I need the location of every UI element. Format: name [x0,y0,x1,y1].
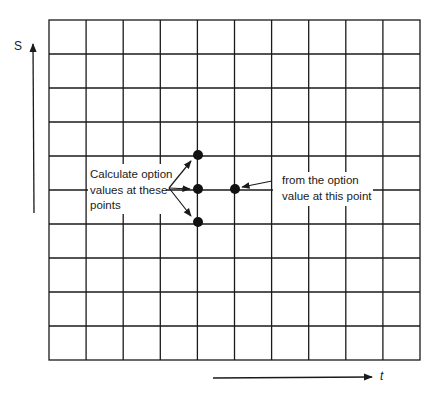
arrow-to-source-point [242,181,272,187]
middle-target-point [193,184,203,194]
s-axis-label: S [14,39,22,53]
source-value-label: from the option value at this point [282,173,372,204]
source-point [230,184,240,194]
calculate-values-label-line-2: values at these [90,183,172,199]
source-value-label-line-1: from the option [282,173,372,189]
source-value-label-line-2: value at this point [282,189,372,205]
t-axis-arrow [213,377,372,378]
upper-target-point [193,150,203,160]
lower-target-point [193,217,203,227]
t-axis-label: t [380,369,383,383]
s-axis-arrow [33,44,34,213]
calculate-values-label-line-3: points [90,198,172,214]
calculate-values-label: Calculate option values at these points [90,167,172,214]
calculate-values-label-line-1: Calculate option [90,167,172,183]
